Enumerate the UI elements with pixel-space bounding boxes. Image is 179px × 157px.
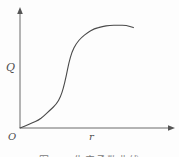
figure-caption: 图1-1 生产函数曲线 xyxy=(0,152,179,157)
y-axis-label: Q xyxy=(6,61,15,74)
x-axis-label: r xyxy=(89,131,95,142)
y-axis-arrowhead xyxy=(17,7,23,14)
origin-label: O xyxy=(8,131,16,142)
figure-container: Q O r 图1-1 生产函数曲线 xyxy=(0,0,179,157)
x-axis-arrowhead xyxy=(168,125,175,131)
chart-canvas: Q O r xyxy=(0,0,179,157)
s-growth-curve xyxy=(20,25,133,128)
